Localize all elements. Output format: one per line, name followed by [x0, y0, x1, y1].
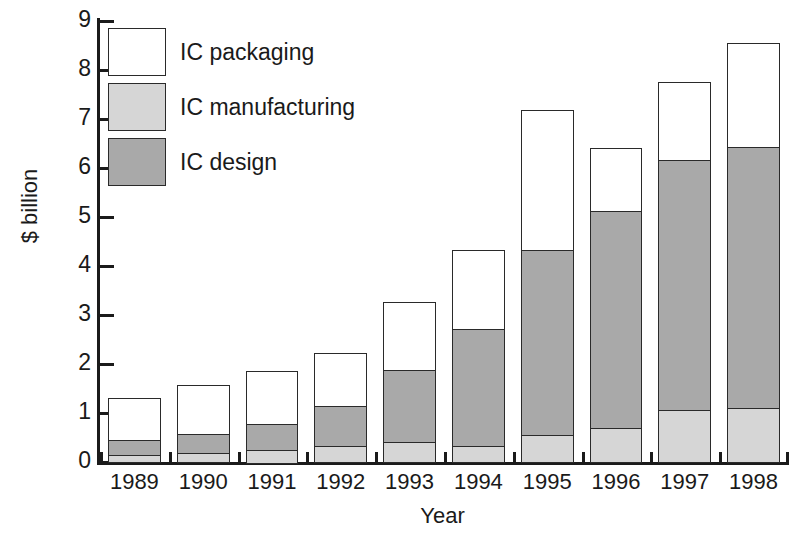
bar-segment-ic-manufacturing [521, 435, 574, 463]
bar-group [452, 0, 505, 462]
x-axis-tick-label: 1998 [709, 470, 799, 494]
x-axis-tick [513, 452, 516, 465]
legend-swatch [108, 83, 166, 131]
bar-segment-ic-packaging [452, 250, 505, 330]
y-axis-tick-label: 5 [61, 204, 91, 227]
x-axis-tick [786, 452, 789, 465]
bar-segment-ic-manufacturing [246, 450, 299, 464]
bar-segment-ic-manufacturing [590, 428, 643, 464]
bar-segment-ic-packaging [383, 302, 436, 372]
bar-group [246, 0, 299, 462]
bar-segment-ic-design [590, 211, 643, 429]
bar-segment-ic-design [727, 147, 780, 410]
y-axis-tick-label: 3 [61, 302, 91, 325]
bar-segment-ic-manufacturing [727, 408, 780, 463]
legend-label: IC design [180, 150, 277, 174]
bar-segment-ic-manufacturing [177, 453, 230, 463]
legend-swatch [108, 28, 166, 76]
bar-segment-ic-packaging [590, 148, 643, 212]
bar-segment-ic-manufacturing [108, 455, 161, 464]
bar-group [521, 0, 574, 462]
x-axis-tick [375, 452, 378, 465]
bar-segment-ic-manufacturing [383, 442, 436, 463]
bar-segment-ic-packaging [177, 385, 230, 436]
bar-group [658, 0, 711, 462]
bar-segment-ic-manufacturing [658, 410, 711, 464]
x-axis-tick [582, 452, 585, 465]
x-axis-tick [100, 452, 103, 465]
x-axis-tick [306, 452, 309, 465]
bar-segment-ic-manufacturing [314, 446, 367, 463]
bar-segment-ic-design [177, 434, 230, 455]
bar-segment-ic-design [314, 406, 367, 448]
legend-label: IC manufacturing [180, 95, 355, 119]
bar-segment-ic-packaging [521, 110, 574, 251]
stacked-bar-chart: 0123456789 19891990199119921993199419951… [0, 0, 799, 542]
legend-label: IC packaging [180, 40, 314, 64]
bar-segment-ic-design [658, 160, 711, 411]
y-axis-title: $ billion [19, 136, 41, 276]
x-axis-tick [719, 452, 722, 465]
x-axis-tick [650, 452, 653, 465]
bar-segment-ic-packaging [246, 371, 299, 425]
x-axis-tick [444, 452, 447, 465]
y-axis-tick-label: 9 [61, 8, 91, 31]
y-axis-tick-label: 0 [61, 449, 91, 472]
bar-group [177, 0, 230, 462]
bar-segment-ic-packaging [108, 398, 161, 441]
x-axis-tick [238, 452, 241, 465]
x-axis-title: Year [97, 505, 788, 527]
bar-segment-ic-design [246, 424, 299, 451]
bar-group [590, 0, 643, 462]
y-axis-tick-label: 2 [61, 351, 91, 374]
y-axis-tick-label: 4 [61, 253, 91, 276]
bar-segment-ic-packaging [658, 82, 711, 161]
y-axis-tick-label: 7 [61, 106, 91, 129]
bar-segment-ic-manufacturing [452, 446, 505, 463]
bar-segment-ic-design [521, 250, 574, 437]
bar-group [314, 0, 367, 462]
y-axis-line [97, 18, 100, 465]
y-axis-tick-label: 8 [61, 57, 91, 80]
bar-group [383, 0, 436, 462]
bar-segment-ic-design [452, 329, 505, 448]
bar-segment-ic-packaging [314, 353, 367, 407]
bar-segment-ic-design [383, 370, 436, 444]
legend-swatch [108, 138, 166, 186]
bar-group [727, 0, 780, 462]
x-axis-tick [169, 452, 172, 465]
bar-segment-ic-packaging [727, 43, 780, 148]
y-axis-tick-label: 1 [61, 400, 91, 423]
y-axis-tick-label: 6 [61, 155, 91, 178]
